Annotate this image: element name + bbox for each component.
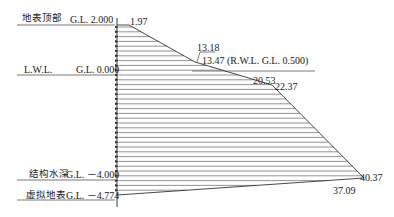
level-elev-lwl: G.L. 0.000 [76,65,119,75]
value-kink-right: 22.37 [275,82,298,92]
level-name-structure: 结构水深 [29,169,69,179]
value-bottom-right: 40.37 [360,173,383,183]
level-name-lwl: L.W.L. [24,65,52,75]
level-elev-virtual: G.L. －4.774 [66,191,119,201]
level-name-top: 地表顶部 [22,13,62,23]
value-kink-left: 20.53 [253,76,276,86]
level-elev-top: G.L. 2.000 [70,15,113,25]
value-top: 1.97 [130,17,148,27]
pressure-outline [117,25,364,195]
hatch-arrows [119,27,362,190]
level-elev-structure: G.L. －4.000 [66,170,119,180]
level-name-virtual: 虚拟地表 [26,190,66,200]
value-rwl-lower: 13.47 (R.W.L. G.L. 0.500) [202,56,308,66]
value-rwl-upper: 13.18 [197,43,220,53]
value-bottom-base: 37.09 [333,186,356,196]
